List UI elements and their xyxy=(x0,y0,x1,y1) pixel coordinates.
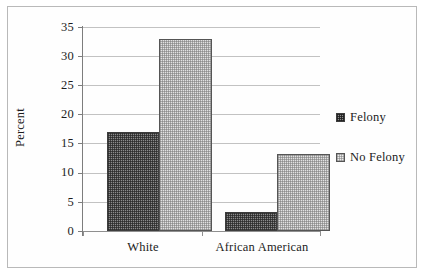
y-axis-title: Percent xyxy=(13,80,28,176)
y-tick-label-10: 10 xyxy=(32,166,74,178)
x-tick-end xyxy=(320,231,321,236)
y-axis-labels: 35 30 25 20 15 10 5 0 xyxy=(28,0,74,279)
x-axis-label-african-american: African American xyxy=(212,240,312,255)
bar-chart-figure: Percent 35 30 25 20 15 10 5 0 xyxy=(0,0,424,279)
chart-legend: Felony No Felony xyxy=(336,110,418,190)
bar-white-no-felony xyxy=(159,39,212,231)
bar-african-american-no-felony xyxy=(277,154,330,231)
legend-item-no-felony: No Felony xyxy=(336,150,418,164)
bar-white-felony xyxy=(107,132,159,231)
no-felony-swatch-icon xyxy=(336,153,345,162)
x-tick-start xyxy=(83,231,84,236)
legend-label-felony: Felony xyxy=(350,110,386,125)
y-tick-label-20: 20 xyxy=(32,108,74,120)
bar-african-american-felony xyxy=(225,212,277,231)
x-tick-middle xyxy=(202,231,203,236)
felony-swatch-icon xyxy=(336,113,345,122)
y-tick-label-0: 0 xyxy=(32,225,74,237)
y-tick-label-15: 15 xyxy=(32,137,74,149)
y-tick-label-35: 35 xyxy=(32,21,74,33)
y-tick-label-25: 25 xyxy=(32,79,74,91)
legend-label-no-felony: No Felony xyxy=(350,150,405,165)
y-tick-label-30: 30 xyxy=(32,50,74,62)
plot-area xyxy=(83,27,320,231)
gridline-35 xyxy=(83,27,320,28)
legend-item-felony: Felony xyxy=(336,110,418,124)
y-tick-label-5: 5 xyxy=(32,196,74,208)
x-axis-label-white: White xyxy=(108,240,178,255)
